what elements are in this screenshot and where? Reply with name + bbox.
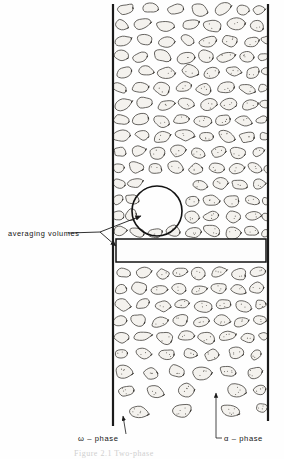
particle-speck bbox=[121, 369, 122, 370]
particle-speck bbox=[160, 305, 161, 306]
particle-speck bbox=[234, 170, 235, 171]
circular-averaging-volume[interactable] bbox=[132, 186, 182, 236]
particle-speck bbox=[185, 413, 186, 414]
omega-particle bbox=[227, 18, 246, 30]
particle-speck bbox=[213, 213, 214, 214]
particle-speck bbox=[170, 356, 171, 357]
particle-speck bbox=[152, 391, 153, 392]
particle-speck bbox=[220, 272, 221, 273]
particle-speck bbox=[253, 199, 254, 200]
particle-speck bbox=[178, 150, 179, 151]
particle-speck bbox=[155, 323, 156, 324]
particle-speck bbox=[234, 23, 235, 24]
particle-speck bbox=[123, 390, 124, 391]
particle-speck bbox=[203, 321, 204, 322]
figure-container: averaging volumes ω – phase α – phase Fi… bbox=[0, 0, 284, 459]
particle-speck bbox=[190, 219, 191, 220]
particle-speck bbox=[176, 413, 177, 414]
rectangular-averaging-volume[interactable] bbox=[116, 239, 266, 262]
particle-speck bbox=[259, 150, 260, 151]
particle-speck bbox=[233, 353, 234, 354]
omega-particle bbox=[216, 300, 231, 309]
particle-speck bbox=[206, 305, 207, 306]
particle-speck bbox=[185, 71, 186, 72]
particle-speck bbox=[239, 389, 240, 390]
particle-speck bbox=[195, 186, 196, 187]
particle-speck bbox=[126, 393, 127, 394]
particle-speck bbox=[262, 408, 263, 409]
particle-speck bbox=[207, 73, 208, 74]
omega-particle bbox=[230, 147, 245, 158]
averaging-volumes-label: averaging volumes bbox=[8, 229, 79, 238]
omega-particle bbox=[150, 147, 165, 159]
particle-speck bbox=[221, 150, 222, 151]
particle-speck bbox=[242, 319, 243, 320]
particle-speck bbox=[163, 306, 164, 307]
particle-speck bbox=[232, 38, 233, 39]
particle-speck bbox=[184, 335, 185, 336]
particle-speck bbox=[155, 392, 156, 393]
particle-speck bbox=[262, 306, 263, 307]
particle-speck bbox=[262, 406, 263, 407]
particle-speck bbox=[178, 290, 179, 291]
particle-speck bbox=[219, 290, 220, 291]
particle-speck bbox=[154, 394, 155, 395]
particle-speck bbox=[205, 138, 206, 139]
particle-speck bbox=[187, 388, 188, 389]
particle-speck bbox=[163, 323, 164, 324]
particle-speck bbox=[260, 304, 261, 305]
particle-speck bbox=[187, 57, 188, 58]
particle-speck bbox=[249, 91, 250, 92]
particle-speck bbox=[200, 154, 201, 155]
particle-speck bbox=[241, 275, 242, 276]
particle-speck bbox=[221, 321, 222, 322]
particle-speck bbox=[213, 167, 214, 168]
particle-speck bbox=[217, 181, 218, 182]
particle-speck bbox=[193, 232, 194, 233]
particle-speck bbox=[203, 370, 204, 371]
particle-speck bbox=[203, 40, 204, 41]
particle-speck bbox=[243, 119, 244, 120]
particle-speck bbox=[250, 338, 251, 339]
particle-speck bbox=[193, 354, 194, 355]
particle-speck bbox=[230, 54, 231, 55]
particle-speck bbox=[247, 102, 248, 103]
particle-speck bbox=[184, 301, 185, 302]
particle-speck bbox=[200, 321, 201, 322]
particle-speck bbox=[175, 153, 176, 154]
particle-speck bbox=[151, 373, 152, 374]
particle-speck bbox=[186, 116, 187, 117]
particle-speck bbox=[156, 289, 157, 290]
particle-speck bbox=[201, 303, 202, 304]
particle-speck bbox=[252, 375, 253, 376]
omega-particle bbox=[173, 115, 189, 124]
particle-speck bbox=[182, 88, 183, 89]
particle-speck bbox=[233, 153, 234, 154]
particle-speck bbox=[249, 374, 250, 375]
particle-speck bbox=[241, 287, 242, 288]
particle-speck bbox=[209, 199, 210, 200]
particle-speck bbox=[235, 216, 236, 217]
particle-speck bbox=[228, 409, 229, 410]
particle-speck bbox=[218, 181, 219, 182]
particle-speck bbox=[203, 371, 204, 372]
particle-speck bbox=[227, 371, 228, 372]
omega-phase-label: ω – phase bbox=[78, 434, 118, 443]
particle-speck bbox=[179, 373, 180, 374]
particle-speck bbox=[237, 387, 238, 388]
omega-particle bbox=[216, 115, 231, 125]
particle-speck bbox=[161, 274, 162, 275]
particle-speck bbox=[178, 167, 179, 168]
particle-speck bbox=[168, 336, 169, 337]
particle-speck bbox=[255, 168, 256, 169]
particle-speck bbox=[179, 274, 180, 275]
particle-speck bbox=[260, 319, 261, 320]
particle-speck bbox=[152, 373, 153, 374]
particle-speck bbox=[211, 218, 212, 219]
particle-speck bbox=[234, 408, 235, 409]
particle-speck bbox=[239, 288, 240, 289]
particle-speck bbox=[211, 215, 212, 216]
particle-speck bbox=[231, 73, 232, 74]
particle-speck bbox=[198, 290, 199, 291]
particle-speck bbox=[216, 233, 217, 234]
